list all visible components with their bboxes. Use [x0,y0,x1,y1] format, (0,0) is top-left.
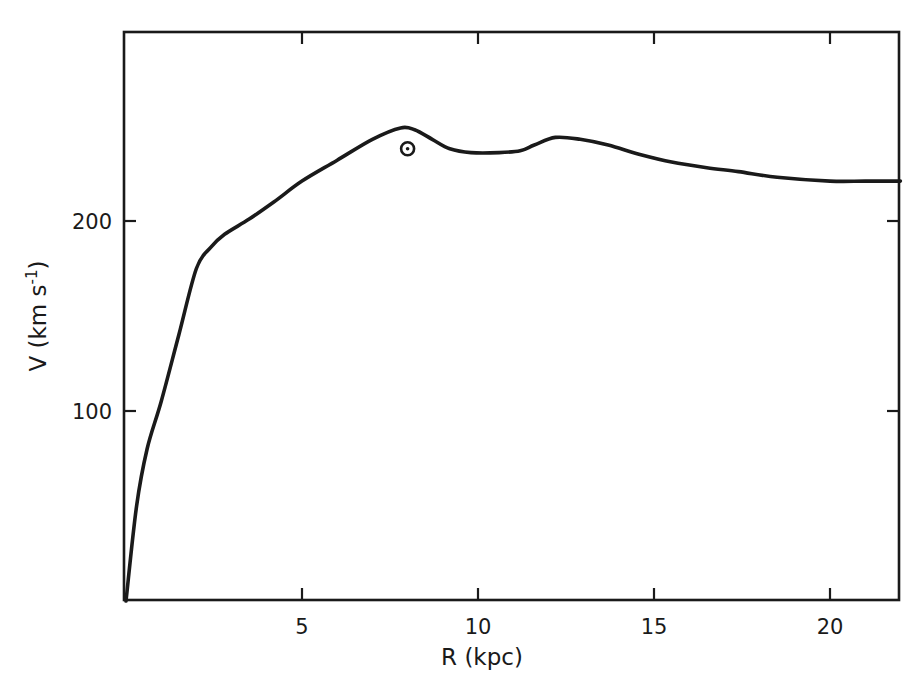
annotations [401,142,414,155]
axis-ticks [124,32,899,600]
rotation-curve [126,127,900,601]
y-tick-label: 200 [72,210,112,234]
plot-frame [124,32,899,600]
x-tick-label: 10 [465,615,492,639]
axes-frame [124,32,899,600]
x-tick-label: 15 [641,615,668,639]
y-axis-label-close: ) [25,261,51,270]
rotation-curve-line [126,127,900,601]
x-tick-label: 5 [295,615,308,639]
axis-tick-labels: 5101520100200 [72,210,843,639]
y-axis-label-exponent: -1 [23,269,41,284]
y-axis-label: V (km s-1) [23,261,51,372]
y-tick-label: 100 [72,400,112,424]
y-axis-label-main: V (km s [25,284,51,371]
x-axis-label: R (kpc) [441,644,523,670]
sun-symbol-icon [401,142,414,155]
rotation-curve-chart: 5101520100200 R (kpc) V (km s-1) [0,0,921,695]
x-tick-label: 20 [817,615,844,639]
